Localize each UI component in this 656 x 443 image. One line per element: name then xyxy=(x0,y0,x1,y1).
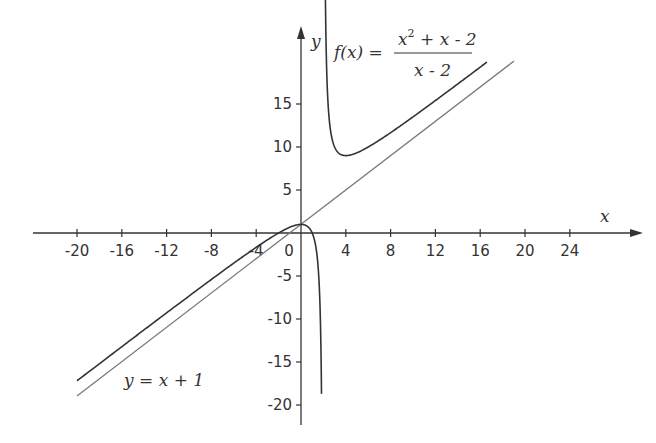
x-tick-label: -8 xyxy=(204,242,219,260)
f-num-x: x xyxy=(398,29,408,49)
y-tick-label: 10 xyxy=(273,138,292,156)
asymptote-line xyxy=(77,61,514,396)
f-numerator: x2 + x - 2 xyxy=(398,27,477,49)
f-num-exp: 2 xyxy=(408,27,415,40)
axes xyxy=(33,26,643,425)
x-axis-arrow-icon xyxy=(630,229,643,237)
curve-right-branch xyxy=(325,0,487,156)
f-num-rest: + x - 2 xyxy=(415,29,477,49)
y-tick-label: -20 xyxy=(268,396,293,414)
x-tick-label: -12 xyxy=(154,242,179,260)
x-tick-label: 12 xyxy=(426,242,445,260)
x-tick-label: 8 xyxy=(386,242,396,260)
x-tick-label: -16 xyxy=(110,242,135,260)
y-tick-label: 15 xyxy=(273,95,292,113)
function-graph: -20-16-12-8-404812162024 15105-5-10-15-2… xyxy=(0,0,656,443)
y-tick-label: 5 xyxy=(282,181,292,199)
y-axis-arrow-icon xyxy=(297,26,305,39)
y-tick-label: -15 xyxy=(268,353,293,371)
x-tick-label: -20 xyxy=(65,242,90,260)
f-denominator: x - 2 xyxy=(414,60,451,80)
x-tick-label: 16 xyxy=(471,242,490,260)
y-tick-label: -5 xyxy=(277,267,292,285)
x-tick-label: 0 xyxy=(284,242,294,260)
x-tick-label: 24 xyxy=(560,242,579,260)
x-tick-label: 20 xyxy=(515,242,534,260)
function-equation: f(x) = x2 + x - 2 x - 2 xyxy=(332,27,477,80)
svg-text:f(x) =: f(x) = xyxy=(332,42,383,62)
x-axis-label: x xyxy=(600,206,610,226)
asymptote-label: y = x + 1 xyxy=(123,370,204,390)
x-tick-label: 4 xyxy=(341,242,351,260)
y-tick-label: -10 xyxy=(268,310,293,328)
y-axis-label: y xyxy=(310,31,321,51)
f-lhs: f(x) = xyxy=(332,42,383,62)
